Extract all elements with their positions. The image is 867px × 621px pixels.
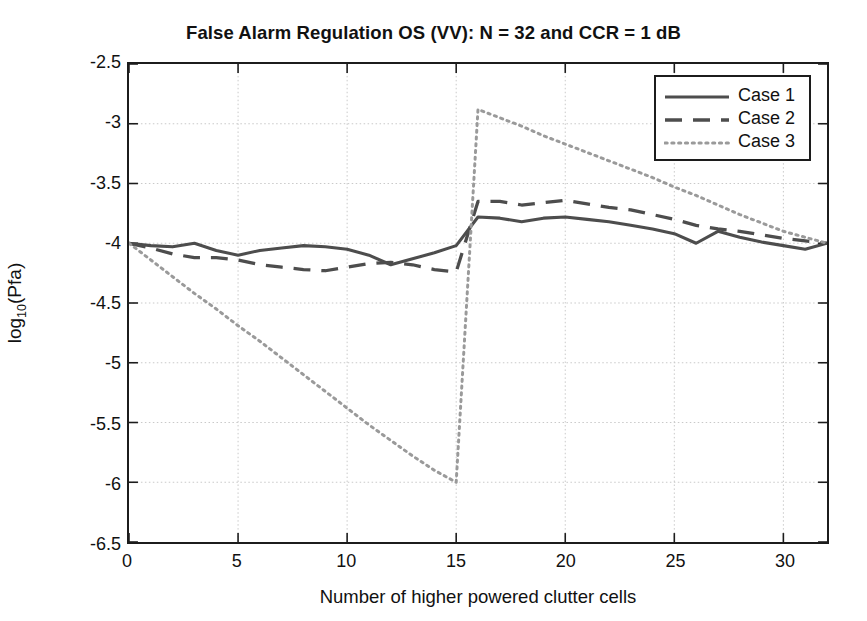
y-axis-tick-labels: -2.5-3-3.5-4-4.5-5-5.5-6-6.5 [63,62,121,544]
y-axis-label-subscript: 10 [14,304,28,318]
y-axis-tick-label: -3.5 [65,172,121,193]
x-axis-tick-label: 15 [426,551,486,572]
legend-item-label: Case 3 [738,132,795,150]
y-axis-tick-label: -5 [65,353,121,374]
x-axis-tick-labels: 051015202530 [127,551,829,577]
chart-legend: Case 1 Case 2 Case 3 [654,75,811,161]
x-axis-tick-label: 5 [207,551,267,572]
y-axis-label-base: log [4,318,25,343]
legend-swatch-dotted-icon [664,135,730,147]
y-axis-tick-label: -2.5 [65,52,121,73]
y-axis-label-tail: (Pfa) [4,263,25,304]
x-axis-label: Number of higher powered clutter cells [127,586,829,608]
x-axis-tick-label: 25 [645,551,705,572]
chart-title: False Alarm Regulation OS (VV): N = 32 a… [0,22,867,44]
legend-item-label: Case 2 [738,109,795,127]
chart-figure: False Alarm Regulation OS (VV): N = 32 a… [0,0,867,621]
x-axis-tick-label: 20 [536,551,596,572]
x-axis-tick-label: 30 [755,551,815,572]
legend-swatch-dashed-icon [664,112,730,124]
x-axis-tick-label: 0 [97,551,157,572]
y-axis-tick-label: -6 [65,473,121,494]
series-line-case-1 [129,217,827,265]
y-axis-tick-label: -4 [65,232,121,253]
legend-item[interactable]: Case 3 [656,129,809,152]
series-line-case-2 [129,200,827,272]
legend-item[interactable]: Case 2 [656,106,809,129]
legend-item[interactable]: Case 1 [656,83,809,106]
y-axis-tick-label: -3 [65,112,121,133]
y-axis-label: log10(Pfa) [0,62,36,544]
series-line-case-3 [129,109,827,482]
y-axis-tick-label: -4.5 [65,293,121,314]
x-axis-tick-label: 10 [316,551,376,572]
legend-swatch-solid-icon [664,89,730,101]
y-axis-tick-label: -5.5 [65,413,121,434]
legend-item-label: Case 1 [738,86,795,104]
